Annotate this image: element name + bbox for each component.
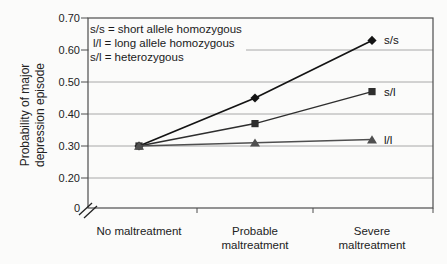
y-tick-label: 0.60 bbox=[36, 43, 80, 57]
y-tick-label: 0 bbox=[36, 201, 80, 215]
y-tick-label: 0.30 bbox=[36, 139, 80, 153]
x-category-label-line: Severe bbox=[315, 224, 429, 238]
x-category-label-line: maltreatment bbox=[315, 238, 429, 252]
series-end-label-s-s: s/s bbox=[384, 32, 399, 48]
y-axis-title-line-1: Probability of major bbox=[18, 63, 33, 167]
legend-line-ss: s/s = short allele homozygous bbox=[90, 22, 242, 36]
x-category-label-line: No maltreatment bbox=[82, 224, 196, 238]
diamond-marker bbox=[250, 93, 259, 102]
square-marker bbox=[368, 88, 375, 95]
legend-line-sl: s/l = heterozygous bbox=[90, 50, 242, 64]
diamond-marker bbox=[367, 36, 376, 45]
legend-line-ll: l/l = long allele homozygous bbox=[93, 36, 242, 50]
square-marker bbox=[251, 120, 258, 127]
depression-genotype-line-chart: Probability of major depression episode … bbox=[0, 0, 447, 264]
x-category-label: Severemaltreatment bbox=[315, 224, 429, 252]
y-tick-label: 0.70 bbox=[36, 11, 80, 25]
y-tick-label: 0.50 bbox=[36, 75, 80, 89]
x-category-label-line: maltreatment bbox=[198, 238, 312, 252]
y-tick-label: 0.20 bbox=[36, 171, 80, 185]
series-end-label-s-l: s/l bbox=[384, 84, 396, 100]
series-end-label-l-l: l/l bbox=[384, 132, 392, 148]
legend: s/s = short allele homozygous l/l = long… bbox=[89, 22, 246, 65]
x-category-label: No maltreatment bbox=[82, 224, 196, 238]
x-category-label-line: Probable bbox=[198, 224, 312, 238]
y-tick-label: 0.40 bbox=[36, 107, 80, 121]
x-category-label: Probablemaltreatment bbox=[198, 224, 312, 252]
